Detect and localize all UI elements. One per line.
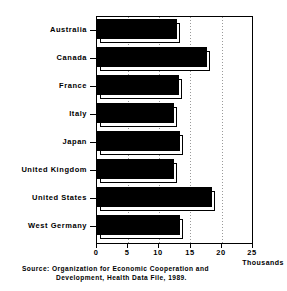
bar-united-states — [97, 187, 212, 207]
bar-canada — [97, 47, 207, 67]
bar-west-germany — [97, 215, 180, 235]
bar-italy — [97, 103, 174, 123]
source-note-line-2: Development, Health Data File, 1989. — [56, 274, 272, 283]
plot-area — [96, 16, 253, 244]
x-axis-label-5: 5 — [125, 247, 130, 258]
bar-australia — [97, 19, 177, 39]
category-label-japan: Japan — [63, 136, 87, 148]
category-label-italy: Italy — [69, 108, 87, 120]
category-axis: Australia Canada France Italy Japan Unit… — [0, 16, 96, 244]
x-axis-label-15: 15 — [185, 247, 194, 258]
chart-container: Australia Canada France Italy Japan Unit… — [0, 0, 287, 291]
category-label-france: France — [59, 80, 87, 92]
bar-united-kingdom — [97, 159, 174, 179]
bar-japan — [97, 131, 180, 151]
bar-france — [97, 75, 179, 95]
source-note: Source: Organization for Economic Cooper… — [22, 265, 272, 282]
x-axis-label-25: 25 — [247, 247, 256, 258]
x-axis-label-20: 20 — [216, 247, 225, 258]
x-axis-labels: 0 5 10 15 20 25 — [96, 247, 254, 259]
category-label-west-germany: West Germany — [28, 220, 87, 232]
category-label-canada: Canada — [57, 52, 87, 64]
category-label-australia: Australia — [50, 24, 87, 36]
source-note-line-1: Source: Organization for Economic Cooper… — [22, 265, 272, 274]
category-label-united-states: United States — [32, 192, 87, 204]
bar-series — [97, 17, 252, 243]
category-label-united-kingdom: United Kingdom — [21, 164, 87, 176]
x-axis-label-0: 0 — [94, 247, 99, 258]
x-axis-label-10: 10 — [153, 247, 162, 258]
